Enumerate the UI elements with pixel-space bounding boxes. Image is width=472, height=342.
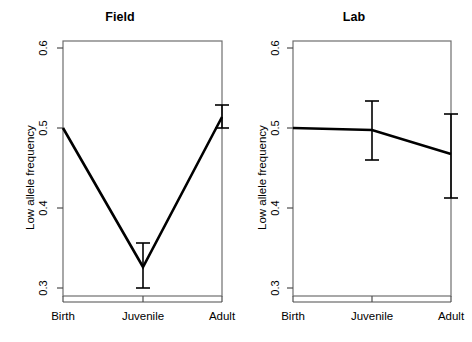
plot-area-field	[0, 0, 240, 342]
error-bar-lab-adult	[444, 114, 458, 198]
y-ticks-lab	[287, 48, 293, 288]
y-ticks-field	[57, 48, 63, 288]
x-axis-lab	[293, 296, 451, 302]
chart-panel-field: Field Low allele frequency 0.6 0.5 0.4 0…	[0, 0, 240, 342]
chart-panel-lab: Lab Low allele frequency 0.6 0.5 0.4 0.3…	[236, 0, 472, 342]
x-axis-field	[63, 296, 222, 302]
plot-area-lab	[236, 0, 472, 342]
error-bar-field-juvenile	[136, 243, 150, 288]
figure-canvas: Field Low allele frequency 0.6 0.5 0.4 0…	[0, 0, 472, 342]
plot-box-lab	[293, 41, 451, 296]
